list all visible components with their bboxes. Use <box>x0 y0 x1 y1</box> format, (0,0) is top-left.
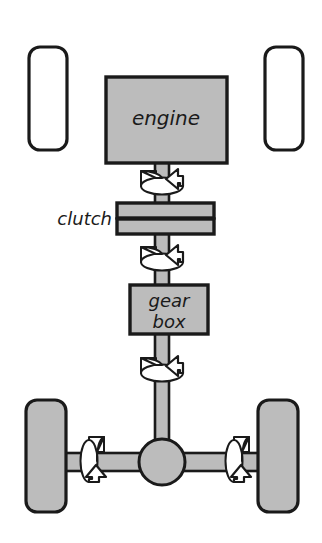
front-right-wheel <box>265 47 303 150</box>
front-left-wheel <box>29 47 67 150</box>
drivetrain-illustration: engine clutch gear box <box>0 0 322 543</box>
differential <box>139 439 185 485</box>
gearbox-label-line2: box <box>152 311 185 332</box>
clutch-upper-plate <box>117 203 214 218</box>
clutch-lower-plate <box>117 219 214 234</box>
clutch-label: clutch <box>57 208 112 229</box>
gearbox-label-line1: gear <box>149 290 192 311</box>
engine-label: engine <box>132 106 200 130</box>
rear-right-wheel <box>258 400 298 512</box>
drivetrain-diagram: engine clutch gear box <box>0 0 322 543</box>
rear-left-wheel <box>26 400 66 512</box>
